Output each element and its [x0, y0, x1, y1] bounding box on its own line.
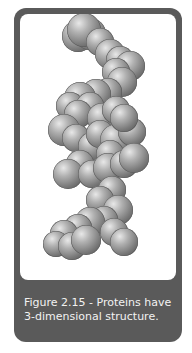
atom-sphere [71, 225, 101, 255]
figure-frame: Figure 2.15 - Proteins have 3-dimensiona… [14, 8, 182, 342]
atom-sphere [110, 228, 138, 256]
illustration-area [20, 14, 176, 280]
caption-line-2: 3-dimensional structure. [24, 310, 174, 324]
atom-sphere [119, 143, 149, 173]
atom-sphere [110, 104, 138, 132]
caption-line-1: Figure 2.15 - Proteins have [24, 296, 174, 310]
figure-caption: Figure 2.15 - Proteins have 3-dimensiona… [22, 296, 174, 324]
